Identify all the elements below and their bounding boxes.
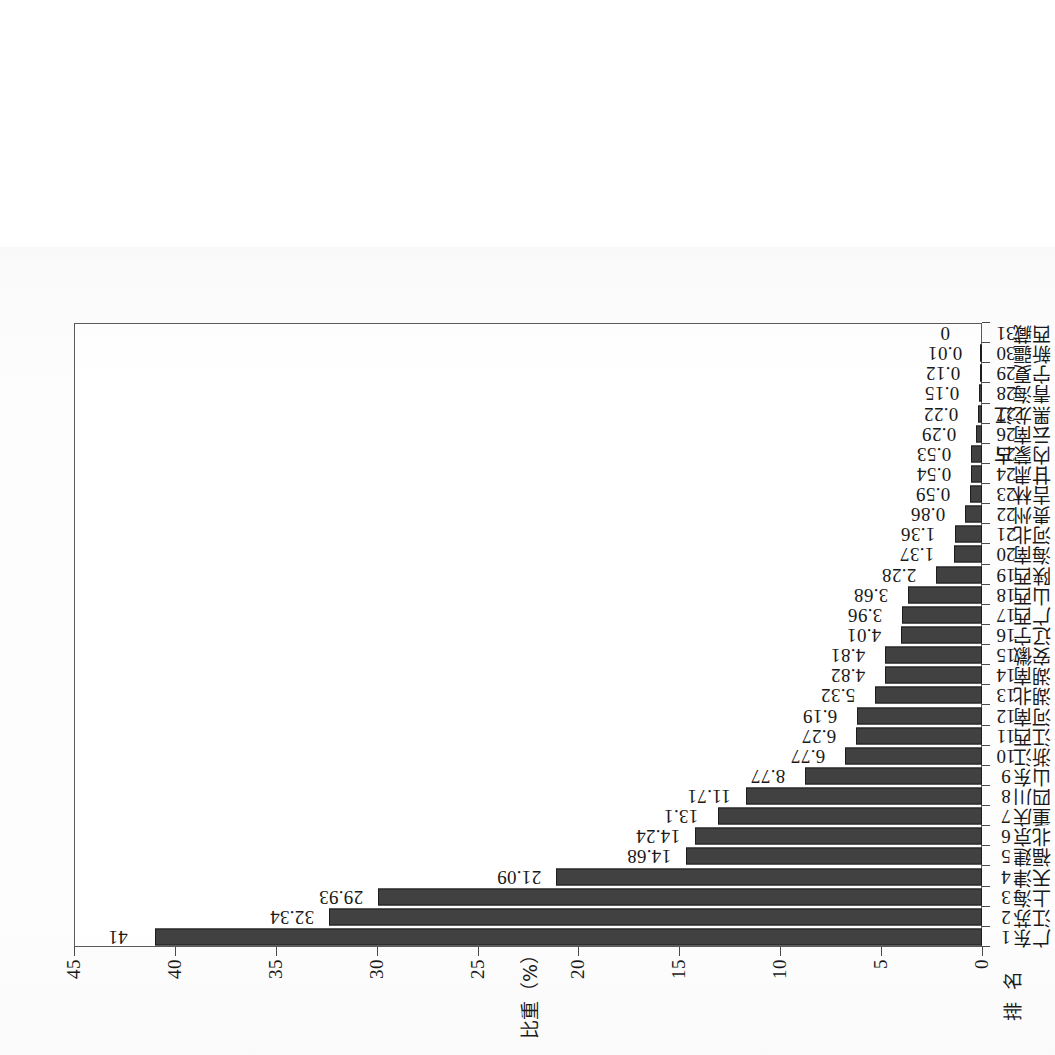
bar[interactable] — [936, 566, 982, 583]
bar-slot: 32.34 — [74, 907, 982, 927]
bar[interactable] — [901, 627, 982, 644]
bar[interactable] — [965, 506, 982, 523]
bar-slot: 0.59 — [74, 484, 982, 504]
value-axis-tick-label: 35 — [265, 959, 287, 979]
bar-slot: 4.01 — [74, 625, 982, 645]
value-axis-tick-label: 0 — [971, 959, 993, 969]
bar-slot: 41 — [74, 927, 982, 947]
bar-slot: 1.36 — [74, 524, 982, 544]
category-axis-tick — [982, 845, 990, 846]
category-axis-tick — [982, 644, 990, 645]
value-axis-title: 比重（%） — [515, 945, 542, 1039]
bar[interactable] — [378, 888, 982, 905]
bar-value-label: 41 — [108, 926, 128, 948]
bar-value-label: 6.77 — [791, 745, 825, 767]
category-axis-tick — [982, 443, 990, 444]
bar-value-label: 1.37 — [900, 544, 934, 566]
bar-slot: 0 — [74, 323, 982, 343]
bar-slot: 1.37 — [74, 544, 982, 564]
bar-value-label: 4.01 — [847, 624, 881, 646]
bar[interactable] — [695, 828, 982, 845]
category-axis-tick — [982, 423, 990, 424]
bar-value-label: 6.19 — [803, 705, 837, 727]
value-axis-tick — [881, 947, 882, 956]
bar-value-label: 8.77 — [751, 765, 785, 787]
bar-slot: 0.54 — [74, 464, 982, 484]
category-axis-tick — [982, 322, 990, 323]
bar[interactable] — [329, 908, 982, 925]
bar[interactable] — [857, 707, 982, 724]
category-axis-tick — [982, 684, 990, 685]
bar-slot: 5.32 — [74, 685, 982, 705]
bar[interactable] — [955, 526, 982, 543]
bar-slot: 0.22 — [74, 404, 982, 424]
bar-slot: 0.01 — [74, 343, 982, 363]
bars-layer: 4132.3429.9321.0914.6814.2413.111.718.77… — [74, 323, 982, 947]
value-axis-tick-label: 25 — [467, 959, 489, 979]
bar[interactable] — [856, 727, 983, 744]
category-axis-tick — [982, 523, 990, 524]
bar[interactable] — [885, 647, 982, 664]
bar[interactable] — [971, 465, 982, 482]
bar[interactable] — [155, 928, 982, 945]
bar[interactable] — [845, 747, 982, 764]
bar[interactable] — [746, 788, 982, 805]
bar[interactable] — [805, 767, 982, 784]
bar-value-label: 0 — [940, 322, 950, 344]
bar[interactable] — [970, 486, 982, 503]
bar[interactable] — [971, 445, 982, 462]
value-axis-tick-label: 5 — [870, 959, 892, 969]
bar-slot: 4.82 — [74, 665, 982, 685]
category-axis-title: 排 名 — [998, 968, 1025, 1021]
category-axis-tick — [982, 926, 990, 927]
bar-slot: 0.12 — [74, 363, 982, 383]
bar-slot: 0.29 — [74, 424, 982, 444]
category-axis: 排 名 1广东2江苏3上海4天津5福建6北京7重庆8四川9山东10浙江11江西1… — [982, 323, 1055, 947]
bar[interactable] — [875, 687, 982, 704]
category-axis-tick — [982, 664, 990, 665]
value-axis-tick-label: 10 — [769, 959, 791, 979]
bar[interactable] — [718, 808, 982, 825]
value-axis-tick-label: 20 — [567, 959, 589, 979]
bar-value-label: 0.22 — [923, 403, 957, 425]
bar-value-label: 0.54 — [917, 463, 951, 485]
bar-value-label: 0.01 — [928, 342, 962, 364]
bar-chart-figure: 比重（%） 051015202530354045 4132.3429.9321.… — [0, 247, 1055, 1055]
bar-value-label: 0.15 — [925, 382, 959, 404]
category-label-group: 31西藏 — [996, 318, 1045, 348]
value-axis-tick — [982, 947, 983, 956]
category-axis-tick — [982, 503, 990, 504]
bar-value-label: 21.09 — [497, 866, 541, 888]
bar-value-label: 14.68 — [627, 845, 671, 867]
category-axis-tick — [982, 946, 990, 947]
value-axis-tick-label: 45 — [63, 959, 85, 979]
bar-value-label: 0.12 — [925, 362, 959, 384]
value-axis-tick — [276, 947, 277, 956]
value-axis-tick-label: 40 — [164, 959, 186, 979]
category-name-label: 西藏 — [1020, 324, 1050, 343]
bar-value-label: 3.68 — [854, 584, 888, 606]
bar-value-label: 4.81 — [831, 644, 865, 666]
category-axis-tick — [982, 805, 990, 806]
bar[interactable] — [686, 848, 982, 865]
bar-slot: 11.71 — [74, 786, 982, 806]
category-axis-tick — [982, 604, 990, 605]
bar[interactable] — [954, 546, 982, 563]
bar-slot: 2.28 — [74, 565, 982, 585]
bar-value-label: 0.59 — [916, 483, 950, 505]
bar-slot: 0.15 — [74, 383, 982, 403]
bar-slot: 29.93 — [74, 887, 982, 907]
value-axis-tick-label: 15 — [668, 959, 690, 979]
category-axis-tick — [982, 584, 990, 585]
bar[interactable] — [556, 868, 982, 885]
bar[interactable] — [885, 667, 982, 684]
category-axis-tick — [982, 725, 990, 726]
category-axis-tick — [982, 362, 990, 363]
bar-slot: 14.68 — [74, 846, 982, 866]
category-axis-tick — [982, 825, 990, 826]
bar-slot: 13.1 — [74, 806, 982, 826]
bar-slot: 6.77 — [74, 746, 982, 766]
bar[interactable] — [902, 606, 982, 623]
bar-slot: 3.68 — [74, 585, 982, 605]
bar[interactable] — [908, 586, 982, 603]
